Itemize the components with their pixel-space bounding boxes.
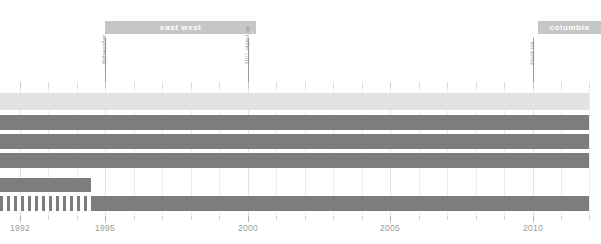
timeline-bar-segment[interactable] [0, 196, 91, 211]
timeline-row-1[interactable] [0, 93, 598, 110]
axis-tick-minor [219, 216, 220, 220]
axis-tick-minor [561, 216, 562, 220]
axis-tick-major [248, 216, 249, 222]
timeline-row-5[interactable] [0, 178, 598, 192]
axis-tick-major [533, 216, 534, 222]
axis-tick-major [390, 216, 391, 222]
axis-tick-label: 2010 [523, 223, 543, 233]
axis-tick-minor [333, 216, 334, 220]
x-axis: 19921995200020052010 [0, 216, 598, 244]
axis-tick-label: 1995 [95, 223, 115, 233]
axis-tick-minor [504, 216, 505, 220]
axis-tick-minor [362, 216, 363, 220]
axis-tick-minor [589, 216, 590, 220]
group-bar-east-west[interactable]: east west [105, 21, 256, 34]
axis-tick-minor [48, 216, 49, 220]
timeline-row-4[interactable] [0, 153, 598, 168]
plot-area [0, 88, 598, 216]
axis-tick-minor [191, 216, 192, 220]
timeline-row-3[interactable] [0, 134, 598, 149]
annotation-label: 2011 object up [245, 26, 251, 64]
annotation-label: dishwasher [102, 34, 108, 64]
axis-tick-minor [77, 216, 78, 220]
timeline-bar-segment[interactable] [0, 134, 589, 149]
timeline-bar-segment[interactable] [0, 178, 91, 192]
axis-tick-label: 2000 [238, 223, 258, 233]
timeline-bar-segment[interactable] [0, 115, 589, 130]
axis-tick-minor [162, 216, 163, 220]
axis-tick-minor [134, 216, 135, 220]
timeline-bar-segment[interactable] [0, 93, 589, 110]
axis-tick-minor [305, 216, 306, 220]
axis-tick-minor [476, 216, 477, 220]
timeline-row-6[interactable] [0, 196, 598, 211]
axis-tick-minor [419, 216, 420, 220]
axis-tick-minor [447, 216, 448, 220]
axis-tick-label: 2005 [380, 223, 400, 233]
axis-tick-major [20, 216, 21, 222]
annotation-label: black ice [530, 41, 536, 64]
group-bar-label: columbia [550, 24, 590, 32]
axis-tick-major [105, 216, 106, 222]
axis-tick-minor [276, 216, 277, 220]
axis-tick-label: 1992 [10, 223, 30, 233]
timeline-bar-segment[interactable] [0, 153, 589, 168]
group-bar-label: east west [160, 24, 201, 32]
timeline-bar-segment[interactable] [91, 196, 589, 211]
timeline-row-2[interactable] [0, 115, 598, 130]
group-bar-columbia[interactable]: columbia [538, 21, 601, 34]
